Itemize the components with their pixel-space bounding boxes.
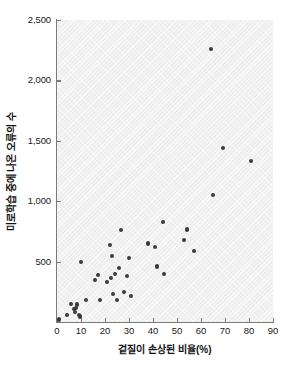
y-tick: [57, 80, 61, 81]
data-point: [84, 298, 88, 302]
x-tick-label: 20: [93, 325, 117, 336]
y-tick-label: 2,500: [28, 14, 51, 25]
data-point: [96, 273, 100, 277]
y-tick-label: 500: [35, 256, 51, 267]
x-tick: [129, 318, 130, 322]
x-tick: [177, 318, 178, 322]
y-axis-line: [56, 19, 57, 323]
data-point: [146, 241, 150, 245]
data-point: [98, 298, 102, 302]
x-tick: [249, 318, 250, 322]
y-tick-label: 1,000: [28, 195, 51, 206]
x-tick-label: 10: [69, 325, 93, 336]
x-axis-line: [56, 322, 274, 323]
x-tick-label: 90: [261, 325, 285, 336]
x-tick-label: 30: [117, 325, 141, 336]
x-tick: [105, 318, 106, 322]
data-point: [79, 260, 83, 264]
x-tick: [201, 318, 202, 322]
x-tick: [225, 318, 226, 322]
y-tick-label: 2,000: [28, 74, 51, 85]
data-point: [125, 274, 129, 278]
y-tick: [57, 262, 61, 263]
data-point: [221, 146, 225, 150]
x-tick-label: 80: [237, 325, 261, 336]
data-point: [209, 47, 213, 51]
data-point: [108, 243, 112, 247]
y-tick: [57, 141, 61, 142]
x-tick-label: 60: [189, 325, 213, 336]
y-tick-label: 1,500: [28, 135, 51, 146]
x-tick-label: 40: [141, 325, 165, 336]
x-tick: [153, 318, 154, 322]
data-point: [185, 227, 189, 231]
data-point: [78, 314, 82, 318]
y-axis-title: 미로학습 중에 나온 오류의 수: [4, 20, 18, 322]
x-tick-label: 0: [45, 325, 69, 336]
y-tick: [57, 20, 61, 21]
data-point: [192, 249, 196, 253]
x-axis-title: 겉질이 손상된 비율(%): [57, 341, 273, 356]
data-point: [119, 228, 123, 232]
y-axis-title-text: 미로학습 중에 나온 오류의 수: [4, 111, 19, 230]
x-tick-label: 50: [165, 325, 189, 336]
scatter-chart-figure: 5001,0001,5002,0002,500 0102030405060708…: [0, 0, 289, 369]
plot-area: [57, 20, 273, 322]
data-point: [155, 264, 159, 268]
y-tick: [57, 201, 61, 202]
x-tick-label: 70: [213, 325, 237, 336]
x-tick: [273, 318, 274, 322]
data-point: [109, 276, 113, 280]
